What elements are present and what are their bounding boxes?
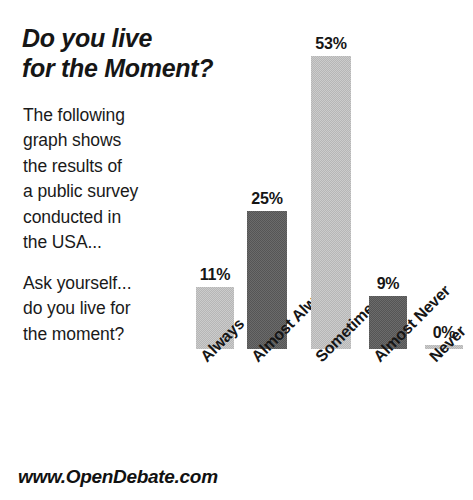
footer-url[interactable]: www.OpenDebate.com xyxy=(18,466,218,488)
bar-group: 9%Almost Never xyxy=(369,0,407,349)
bar-group: 25%Almost Always xyxy=(247,0,287,349)
bar-value-label: 11% xyxy=(200,266,231,284)
poster-canvas: Do you live for the Moment? The followin… xyxy=(0,0,473,500)
survey-bar-chart: 11%Always25%Almost Always53%Sometimes9%A… xyxy=(0,0,473,500)
bar-group: 11%Always xyxy=(196,0,234,349)
bar-group: 53%Sometimes xyxy=(311,0,351,349)
bar-value-label: 25% xyxy=(251,190,282,208)
bar-value-label: 53% xyxy=(315,35,346,53)
bar-sometimes[interactable] xyxy=(311,56,351,349)
bar-group: 0%Never xyxy=(425,0,463,349)
bar-value-label: 9% xyxy=(377,275,400,293)
